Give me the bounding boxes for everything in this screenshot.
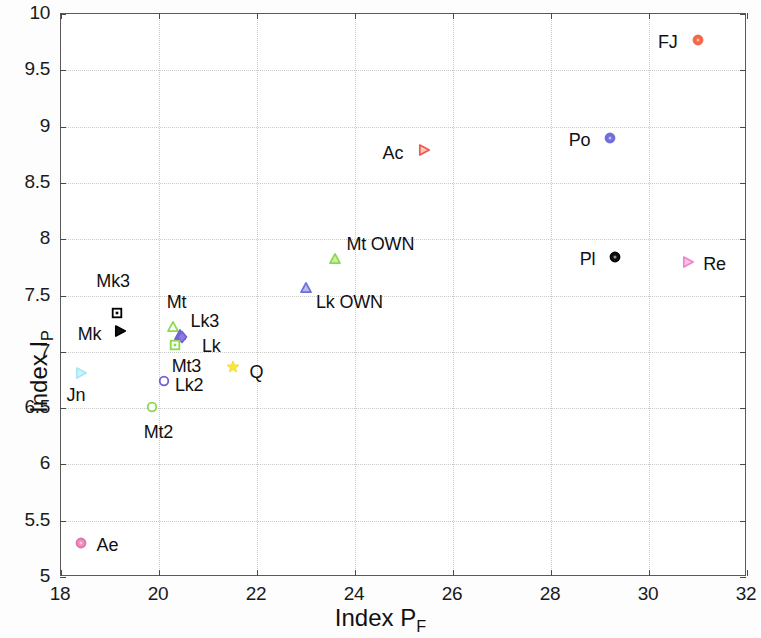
y-tick-mark xyxy=(740,352,746,353)
y-tick-mark xyxy=(740,14,746,15)
data-point-label-lk3: Lk3 xyxy=(191,311,219,332)
x-tick-mark xyxy=(257,13,258,19)
x-tick-label: 30 xyxy=(638,583,659,605)
x-tick-label: 22 xyxy=(246,583,267,605)
gridline-horizontal xyxy=(61,352,745,353)
gridline-horizontal xyxy=(61,127,745,128)
data-point-marker-po xyxy=(602,130,618,150)
data-point-marker-ac xyxy=(416,142,432,162)
data-point-label-re: Re xyxy=(703,254,726,275)
gridline-horizontal xyxy=(61,521,745,522)
y-tick-mark xyxy=(60,14,66,15)
gridline-horizontal xyxy=(61,408,745,409)
x-tick-label: 18 xyxy=(50,583,71,605)
x-tick-mark xyxy=(649,13,650,19)
y-tick-mark xyxy=(60,408,66,409)
x-tick-label: 24 xyxy=(344,583,365,605)
y-tick-mark xyxy=(60,352,66,353)
y-axis-title: Index IP xyxy=(25,330,57,413)
x-tick-mark xyxy=(551,13,552,19)
y-tick-mark xyxy=(740,70,746,71)
x-tick-mark xyxy=(747,13,748,19)
scatter-plot-figure: FJ PoAcMt OWN PlReLk OWN Mk3MtMkLk3Lk Mt… xyxy=(0,0,761,638)
y-tick-mark xyxy=(60,464,66,465)
gridline-vertical xyxy=(649,14,650,575)
data-point-label-jn: Jn xyxy=(67,385,86,406)
y-tick-mark xyxy=(60,521,66,522)
data-point-marker-pl xyxy=(607,249,623,269)
y-tick-mark xyxy=(60,127,66,128)
y-tick-mark xyxy=(60,577,66,578)
gridline-vertical xyxy=(159,14,160,575)
gridline-horizontal xyxy=(61,296,745,297)
data-point-marker-ae xyxy=(73,535,89,555)
data-point-marker-lk2 xyxy=(156,373,172,393)
data-point-marker-mt3 xyxy=(167,337,183,357)
data-point-label-ac: Ac xyxy=(383,143,404,164)
data-point-label-fj: FJ xyxy=(658,32,678,53)
x-tick-mark xyxy=(159,13,160,19)
y-tick-mark xyxy=(740,183,746,184)
data-point-label-pl: Pl xyxy=(580,249,596,270)
data-point-label-mk: Mk xyxy=(78,324,102,345)
x-tick-mark xyxy=(453,570,454,576)
y-tick-mark xyxy=(60,296,66,297)
y-tick-mark xyxy=(740,408,746,409)
x-tick-mark xyxy=(355,570,356,576)
data-point-label-lk-own: Lk OWN xyxy=(316,292,383,313)
data-point-label-lk2: Lk2 xyxy=(175,375,203,396)
y-tick-mark xyxy=(740,127,746,128)
x-tick-mark xyxy=(453,13,454,19)
data-point-label-mk3: Mk3 xyxy=(96,271,129,292)
gridline-horizontal xyxy=(61,70,745,71)
x-tick-label: 28 xyxy=(540,583,561,605)
gridline-vertical xyxy=(453,14,454,575)
x-tick-label: 32 xyxy=(736,583,757,605)
y-tick-mark xyxy=(60,70,66,71)
x-tick-mark xyxy=(649,570,650,576)
y-tick-mark xyxy=(740,577,746,578)
y-tick-mark xyxy=(740,521,746,522)
data-point-label-po: Po xyxy=(569,130,591,151)
y-tick-mark xyxy=(740,296,746,297)
data-point-marker-re xyxy=(680,254,696,274)
data-point-label-q: Q xyxy=(250,362,264,383)
gridline-horizontal xyxy=(61,464,745,465)
data-point-marker-lk-own xyxy=(298,280,314,300)
data-point-label-mt2: Mt2 xyxy=(144,422,173,443)
x-tick-mark xyxy=(551,570,552,576)
x-tick-label: 26 xyxy=(442,583,463,605)
data-point-label-lk: Lk xyxy=(202,336,221,357)
plot-area: FJ PoAcMt OWN PlReLk OWN Mk3MtMkLk3Lk Mt… xyxy=(60,13,746,576)
data-point-marker-q xyxy=(225,359,241,379)
y-tick-mark xyxy=(60,239,66,240)
gridline-vertical xyxy=(551,14,552,575)
gridline-vertical xyxy=(257,14,258,575)
y-tick-mark xyxy=(60,183,66,184)
data-point-label-mt: Mt xyxy=(167,292,187,313)
data-point-marker-mk xyxy=(112,323,128,343)
data-point-marker-mt2 xyxy=(144,399,160,419)
x-tick-mark xyxy=(355,13,356,19)
data-point-label-mt3: Mt3 xyxy=(172,356,201,377)
x-tick-mark xyxy=(159,570,160,576)
x-axis-title: Index PF xyxy=(0,604,761,636)
x-tick-mark xyxy=(747,570,748,576)
y-tick-mark xyxy=(740,239,746,240)
x-tick-label: 20 xyxy=(148,583,169,605)
data-point-marker-jn xyxy=(73,365,89,385)
y-tick-mark xyxy=(740,464,746,465)
x-tick-mark xyxy=(257,570,258,576)
data-point-marker-mk3 xyxy=(109,305,125,325)
gridline-horizontal xyxy=(61,183,745,184)
y-axis-title-wrap: Index IP xyxy=(0,0,32,638)
x-tick-mark xyxy=(61,570,62,576)
data-point-marker-mt-own xyxy=(327,251,343,271)
data-point-marker-fj xyxy=(690,32,706,52)
data-point-label-mt-own: Mt OWN xyxy=(346,234,414,255)
data-point-label-ae: Ae xyxy=(97,535,119,556)
